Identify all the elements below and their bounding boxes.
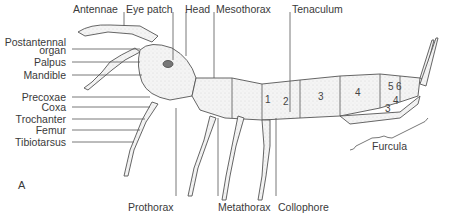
label-femur: Femur (36, 125, 66, 136)
segment-2: 2 (283, 96, 289, 107)
segment-4-lower: 4 (393, 95, 399, 106)
label-eye-patch: Eye patch (126, 4, 173, 15)
segment-4: 4 (355, 87, 361, 98)
label-antennae: Antennae (73, 4, 118, 15)
segment-1: 1 (265, 94, 271, 105)
label-furcula: Furcula (372, 141, 407, 152)
label-coxa: Coxa (41, 102, 66, 113)
segment-6: 6 (396, 81, 402, 92)
springtail-illustration: 1 2 3 4 5 6 4 3 (0, 0, 449, 216)
label-mesothorax: Mesothorax (216, 4, 271, 15)
segment-5: 5 (388, 81, 394, 92)
panel-label: A (18, 180, 25, 191)
segment-3-lower: 3 (385, 103, 391, 114)
label-collophore: Collophore (278, 202, 329, 213)
label-tenaculum: Tenaculum (292, 4, 343, 15)
label-prothorax: Prothorax (128, 202, 174, 213)
label-palpus: Palpus (34, 57, 66, 68)
label-mandible: Mandible (23, 70, 66, 81)
label-organ: organ (39, 45, 66, 56)
segment-3: 3 (318, 91, 324, 102)
label-metathorax: Metathorax (218, 202, 271, 213)
label-head: Head (185, 4, 210, 15)
label-tibiotarsus: Tibiotarsus (15, 137, 66, 148)
